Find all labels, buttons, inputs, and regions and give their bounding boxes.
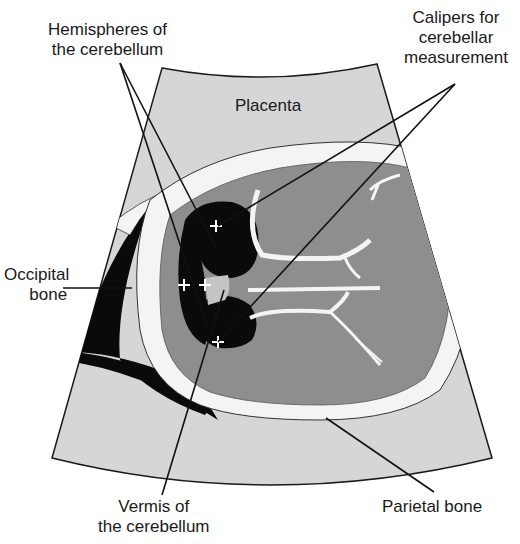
label-calipers-line2: cerebellar <box>404 28 508 48</box>
label-parietal-text: Parietal bone <box>382 497 482 517</box>
label-placenta: Placenta <box>235 96 301 116</box>
ultrasound-diagram <box>0 0 520 544</box>
label-occipital-line2: bone <box>4 285 69 305</box>
label-vermis-line2: the cerebellum <box>98 517 210 537</box>
label-occipital: Occipital bone <box>4 265 69 305</box>
label-vermis: Vermis of the cerebellum <box>98 497 210 537</box>
label-hemispheres-line2: the cerebellum <box>48 40 167 60</box>
label-parietal: Parietal bone <box>382 497 482 517</box>
label-hemispheres-line1: Hemispheres of <box>48 20 167 40</box>
label-occipital-line1: Occipital <box>4 265 69 285</box>
label-placenta-text: Placenta <box>235 96 301 116</box>
label-hemispheres: Hemispheres of the cerebellum <box>48 20 167 60</box>
label-vermis-line1: Vermis of <box>98 497 210 517</box>
label-calipers-line1: Calipers for <box>404 8 508 28</box>
label-calipers: Calipers for cerebellar measurement <box>404 8 508 68</box>
label-calipers-line3: measurement <box>404 48 508 68</box>
